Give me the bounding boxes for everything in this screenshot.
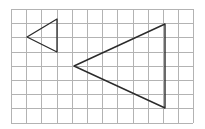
- figure-canvas: [0, 0, 205, 129]
- geometry-figure: [0, 0, 205, 129]
- grid-layer: [11, 9, 194, 124]
